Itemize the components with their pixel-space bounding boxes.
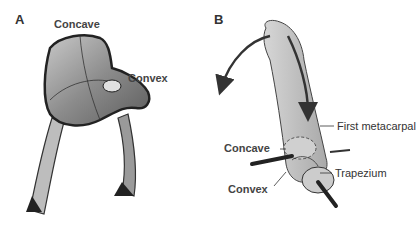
- panel-label-b: B: [214, 12, 223, 27]
- convex-label-a: Convex: [128, 72, 168, 84]
- saddle-joint-model: [26, 35, 149, 214]
- concave-label-a: Concave: [54, 18, 100, 30]
- convex-label-b: Convex: [228, 183, 268, 195]
- thumb-cmc-joint: [222, 20, 350, 206]
- panel-label-a: A: [15, 12, 24, 27]
- concave-label-b: Concave: [224, 142, 270, 154]
- trapezium-label: Trapezium: [335, 167, 387, 179]
- first-metacarpal-label: First metacarpal: [337, 120, 416, 132]
- diagram-canvas: [0, 0, 417, 237]
